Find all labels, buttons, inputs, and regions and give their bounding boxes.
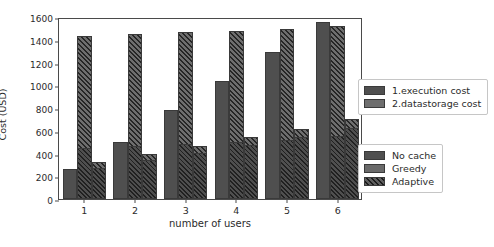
bar-adaptive-users-3 <box>193 146 208 199</box>
legend-item[interactable]: 2.datastorage cost <box>364 97 481 110</box>
bar-segment-execution-cost <box>230 143 243 198</box>
chart-figure: Cost (USD) 02004006008001000120014001600… <box>0 0 494 247</box>
y-tick-mark <box>55 110 59 111</box>
bar-segment-execution-cost <box>194 154 207 198</box>
x-tick-label: 1 <box>81 206 87 216</box>
legend-swatch-icon <box>364 99 385 108</box>
bar-segment-execution-cost <box>114 143 127 198</box>
bar-greedy-users-2 <box>128 34 143 199</box>
bar-segment-execution-cost <box>245 146 258 198</box>
x-tick-label: 4 <box>233 206 239 216</box>
plot-area: 02004006008001000120014001600 123456 <box>58 18 362 200</box>
bar-no-cache-users-5 <box>265 52 280 199</box>
y-axis-label: Cost (USD) <box>0 89 8 141</box>
legend-swatch-icon <box>364 177 385 186</box>
bar-segment-execution-cost <box>165 111 178 198</box>
bar-adaptive-users-5 <box>294 129 309 199</box>
y-tick-mark <box>55 132 59 133</box>
legend-item-label: 1.execution cost <box>392 86 470 96</box>
bar-adaptive-users-4 <box>244 137 259 199</box>
bar-segment-datastorage-cost <box>78 37 91 149</box>
x-tick-mark <box>185 199 186 203</box>
bar-segment-datastorage-cost <box>129 35 142 147</box>
bar-segment-execution-cost <box>346 129 359 198</box>
bar-greedy-users-6 <box>330 26 345 199</box>
bar-segment-execution-cost <box>129 147 142 198</box>
legend-swatch-icon <box>364 151 385 160</box>
legend-item[interactable]: Adaptive <box>364 175 436 188</box>
legend-item-label: No cache <box>392 151 436 161</box>
bar-no-cache-users-2 <box>113 142 128 199</box>
bar-segment-datastorage-cost <box>331 27 344 137</box>
bar-segment-datastorage-cost <box>245 138 258 146</box>
bar-no-cache-users-3 <box>164 110 179 199</box>
y-tick-mark <box>55 64 59 65</box>
bar-segment-datastorage-cost <box>194 147 207 154</box>
bar-segment-execution-cost <box>78 149 91 198</box>
policy-legend: No cacheGreedyAdaptive <box>358 144 443 193</box>
x-tick-label: 5 <box>284 206 290 216</box>
x-tick-mark <box>337 199 338 203</box>
legend-item-label: Greedy <box>392 164 426 174</box>
x-tick-mark <box>135 199 136 203</box>
bar-segment-execution-cost <box>331 137 344 198</box>
bar-segment-execution-cost <box>266 53 279 198</box>
bar-segment-execution-cost <box>93 169 106 198</box>
bar-segment-datastorage-cost <box>179 33 192 145</box>
cost-type-legend: 1.execution cost2.datastorage cost <box>358 79 488 115</box>
y-tick-mark <box>55 178 59 179</box>
x-tick-label: 2 <box>132 206 138 216</box>
bar-greedy-users-5 <box>280 29 295 199</box>
y-tick-mark <box>55 19 59 20</box>
bar-segment-datastorage-cost <box>346 120 359 129</box>
bar-segment-execution-cost <box>179 145 192 198</box>
y-tick-mark <box>55 155 59 156</box>
x-tick-label: 3 <box>183 206 189 216</box>
bar-segment-datastorage-cost <box>93 163 106 169</box>
bar-segment-execution-cost <box>295 138 308 198</box>
bar-segment-datastorage-cost <box>281 30 294 141</box>
bar-segment-execution-cost <box>216 82 229 198</box>
bar-segment-execution-cost <box>143 161 156 198</box>
bar-segment-datastorage-cost <box>143 155 156 162</box>
bar-segment-execution-cost <box>281 141 294 198</box>
legend-item[interactable]: No cache <box>364 149 436 162</box>
x-tick-label: 6 <box>335 206 341 216</box>
bar-segment-execution-cost <box>64 170 77 198</box>
bar-greedy-users-3 <box>178 32 193 199</box>
bar-greedy-users-4 <box>229 31 244 199</box>
bar-greedy-users-1 <box>77 36 92 199</box>
legend-swatch-icon <box>364 164 385 173</box>
legend-item[interactable]: 1.execution cost <box>364 84 481 97</box>
x-tick-mark <box>84 199 85 203</box>
legend-item-label: Adaptive <box>392 177 434 187</box>
bar-adaptive-users-2 <box>142 154 157 200</box>
x-axis-label: number of users <box>58 218 362 229</box>
legend-item-label: 2.datastorage cost <box>392 99 481 109</box>
bar-segment-execution-cost <box>317 23 330 198</box>
bar-segment-datastorage-cost <box>295 130 308 138</box>
bar-no-cache-users-1 <box>63 169 78 199</box>
bar-segment-datastorage-cost <box>230 32 243 143</box>
legend-item[interactable]: Greedy <box>364 162 436 175</box>
bar-no-cache-users-6 <box>316 22 331 199</box>
y-tick-mark <box>55 201 59 202</box>
y-tick-mark <box>55 87 59 88</box>
x-tick-mark <box>236 199 237 203</box>
y-tick-mark <box>55 41 59 42</box>
x-tick-mark <box>287 199 288 203</box>
bar-no-cache-users-4 <box>215 81 230 199</box>
legend-swatch-icon <box>364 86 385 95</box>
bar-adaptive-users-1 <box>92 162 107 199</box>
